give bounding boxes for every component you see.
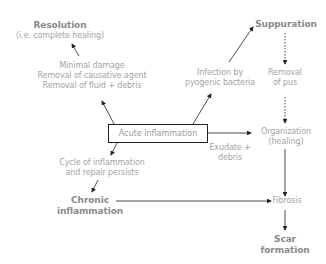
arrow-label-to-resolution [72, 44, 79, 56]
edge-label-line: debris [205, 153, 255, 163]
node-scar-formation: Scar formation [255, 234, 315, 256]
node-line: (healing) [252, 137, 320, 147]
arrow-box-to-resolution-label [102, 101, 114, 124]
node-removal-of-pus: Removal of pus [255, 68, 315, 88]
resolution-subtitle: (i.e. complete healing) [8, 31, 112, 41]
node-suppuration: Suppuration [248, 19, 324, 30]
edge-label-line: Removal of fluid + debris [32, 81, 152, 91]
node-line: Chronic [55, 195, 125, 206]
edge-label-line: Minimal damage [32, 61, 152, 71]
edge-label-line: Cycle of inflammation [52, 158, 152, 168]
node-chronic-inflammation: Chronic inflammation [55, 195, 125, 217]
edge-label-to-organization: Exudate + debris [205, 143, 255, 163]
node-line: of pus [255, 78, 315, 88]
edge-label-line: Removal of causative agent [32, 71, 152, 81]
resolution-title: Resolution [8, 20, 112, 31]
node-line: Scar [255, 234, 315, 245]
node-resolution: Resolution (i.e. complete healing) [8, 20, 112, 41]
node-line: Organization [252, 127, 320, 137]
node-line: Removal [255, 68, 315, 78]
central-box-acute-inflammation: Acute inflammation [108, 124, 208, 143]
node-fibrosis: Fibrosis [270, 196, 304, 206]
edge-label-line: pyogenic bacteria [175, 78, 265, 88]
arrow-box-to-cycle-label [111, 143, 117, 155]
edge-label-line: Exudate + [205, 143, 255, 153]
arrow-box-to-infection-label [193, 94, 211, 124]
edge-label-to-chronic: Cycle of inflammation and repair persist… [52, 158, 152, 178]
node-line: formation [255, 245, 315, 256]
arrow-cycle-to-chronic [92, 180, 98, 192]
edge-label-line: Infection by [175, 68, 265, 78]
arrow-infection-to-suppuration [229, 27, 253, 62]
edge-label-line: and repair persists [52, 168, 152, 178]
node-line: inflammation [55, 206, 125, 217]
edge-label-to-suppuration: Infection by pyogenic bacteria [175, 68, 265, 88]
node-organization: Organization (healing) [252, 127, 320, 147]
edge-label-to-resolution: Minimal damage Removal of causative agen… [32, 61, 152, 91]
